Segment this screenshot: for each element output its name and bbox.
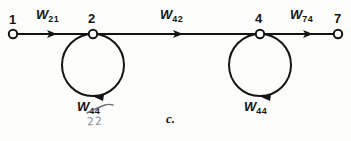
edge-weight-label-74: W74 — [290, 8, 313, 21]
weight-symbol: W — [244, 99, 256, 114]
weight-symbol: W — [160, 7, 172, 22]
handwritten-correction-22: 22 — [87, 114, 104, 128]
node-marker-7[interactable] — [334, 30, 342, 38]
weight-symbol: W — [77, 99, 89, 114]
weight-subscript: 44 — [256, 106, 267, 116]
figure-caption: c. — [166, 112, 175, 125]
edge-weight-label-21: W21 — [36, 8, 59, 21]
weight-subscript: 74 — [302, 14, 313, 24]
weight-symbol: W — [290, 7, 302, 22]
self-loop-weight-label-node-4: W44 — [244, 100, 267, 113]
node-marker-2[interactable] — [89, 30, 97, 38]
node-marker-4[interactable] — [256, 30, 264, 38]
weight-subscript: 42 — [172, 14, 183, 24]
node-label-2: 2 — [88, 12, 95, 25]
self-loop-circle-node-2 — [62, 34, 124, 96]
node-label-1: 1 — [9, 13, 16, 26]
node-marker-1[interactable] — [9, 30, 17, 38]
self-loop-weight-label-node-2: W44 — [77, 100, 100, 113]
self-loop-circle-node-4 — [229, 34, 291, 96]
node-label-4: 4 — [255, 12, 262, 25]
figure-container: 1 2 4 7 W21 W42 W74 W44 W44 22 c. — [0, 0, 351, 141]
weight-subscript: 21 — [48, 14, 59, 24]
weight-symbol: W — [36, 7, 48, 22]
edge-weight-label-42: W42 — [160, 8, 183, 21]
node-label-7: 7 — [334, 12, 341, 25]
